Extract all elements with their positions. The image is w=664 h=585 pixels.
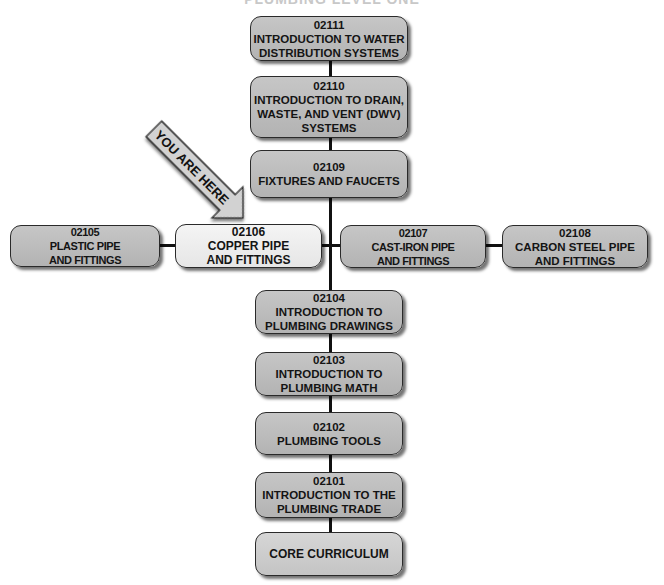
you-are-here-arrow-icon: YOU ARE HERE [0, 0, 664, 585]
you-are-here-label: YOU ARE HERE [152, 127, 232, 207]
